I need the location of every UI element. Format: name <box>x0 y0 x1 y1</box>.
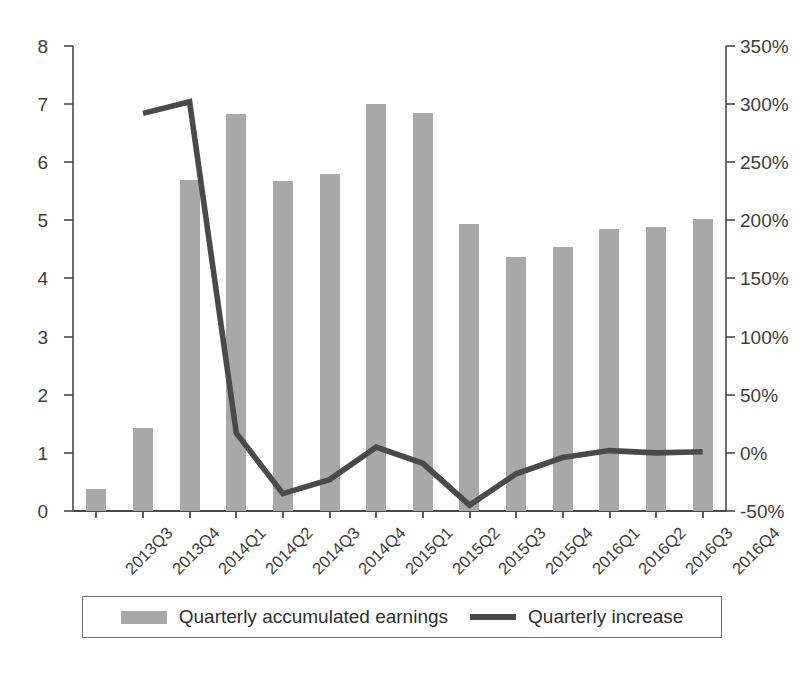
left-axis-tick-label: 1 <box>18 444 48 463</box>
legend-item-increase: Quarterly increase <box>470 606 683 628</box>
x-tick-2016q1: 2016Q1 <box>589 524 642 577</box>
right-axis-tick-label: 250% <box>740 153 789 172</box>
left-axis-tick-label: 2 <box>18 386 48 405</box>
legend-label-earnings: Quarterly accumulated earnings <box>179 606 448 628</box>
x-tick-2015q2: 2015Q2 <box>449 524 502 577</box>
x-axis-spine-group <box>73 511 726 518</box>
right-axis-tick-label: 100% <box>740 328 789 347</box>
left-axis-tick-label: 6 <box>18 153 48 172</box>
x-tick-2015q4: 2015Q4 <box>542 524 595 577</box>
left-axis-tick-label: 5 <box>18 211 48 230</box>
right-axis-tick-label: 0% <box>740 444 767 463</box>
right-axis-tick-label: 150% <box>740 269 789 288</box>
left-axis-tick-label: 3 <box>18 328 48 347</box>
left-axis-tick-label: 4 <box>18 269 48 288</box>
left-axis-tick-label: 8 <box>18 37 48 56</box>
x-tick-2014q1: 2014Q1 <box>215 524 268 577</box>
left-axis-tick-label: 0 <box>18 502 48 521</box>
x-tick-2016q2: 2016Q2 <box>635 524 688 577</box>
bar-swatch-icon <box>121 611 167 624</box>
x-tick-2013q4: 2013Q4 <box>169 524 222 577</box>
x-tick-2014q3: 2014Q3 <box>309 524 362 577</box>
right-axis-tick-label: -50% <box>740 502 784 521</box>
x-tick-2014q4: 2014Q4 <box>355 524 408 577</box>
x-tick-2015q3: 2015Q3 <box>495 524 548 577</box>
left-spine-group <box>64 46 73 511</box>
x-tick-2013q3: 2013Q3 <box>122 524 175 577</box>
x-tick-2016q3: 2016Q3 <box>682 524 735 577</box>
x-tick-2014q2: 2014Q2 <box>262 524 315 577</box>
x-tick-2015q1: 2015Q1 <box>402 524 455 577</box>
legend-item-earnings: Quarterly accumulated earnings <box>121 606 448 628</box>
right-axis-tick-label: 200% <box>740 211 789 230</box>
right-axis-tick-label: 350% <box>740 37 789 56</box>
chart-legend: Quarterly accumulated earnings Quarterly… <box>82 596 722 638</box>
plot-area <box>73 46 726 511</box>
left-axis-tick-label: 7 <box>18 95 48 114</box>
line-series-quarterly-increase <box>73 46 726 511</box>
chart-figure: 8 7 6 5 4 3 2 1 0 350% 300% 250% 200% 15… <box>0 0 812 675</box>
right-axis-tick-label: 50% <box>740 386 778 405</box>
x-tick-2016q4: 2016Q4 <box>729 524 782 577</box>
right-axis-tick-label: 300% <box>740 95 789 114</box>
legend-label-increase: Quarterly increase <box>528 606 683 628</box>
line-swatch-icon <box>470 614 516 620</box>
right-spine-group <box>726 46 735 511</box>
